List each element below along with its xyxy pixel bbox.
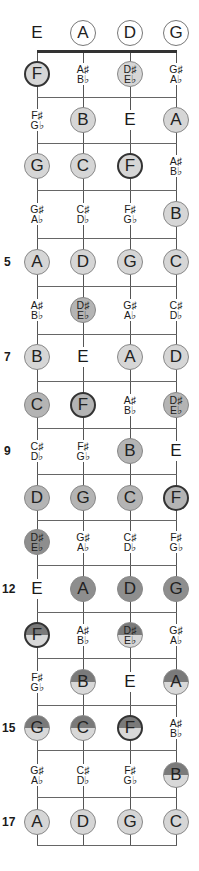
note-cell: G♯A♭	[22, 199, 52, 229]
scale-note-marker: C	[163, 809, 189, 835]
note-cell: G	[115, 807, 145, 837]
note-cell: G♯A♭	[68, 527, 98, 557]
note-cell: G	[115, 247, 145, 277]
note-cell: F♯G♭	[22, 667, 52, 697]
note-cell: B	[161, 760, 191, 790]
note-label: A	[31, 252, 42, 272]
fret-line	[37, 474, 177, 475]
note-cell: D♯E♭	[161, 390, 191, 420]
note-label: F	[32, 64, 42, 84]
enharmonic-note-label: F♯G♭	[76, 440, 89, 462]
scale-note-marker: G	[70, 485, 96, 511]
note-label: F	[78, 395, 88, 415]
note-label: A	[31, 812, 42, 832]
note-label: F	[125, 156, 135, 176]
scale-note-marker: A	[24, 809, 50, 835]
root-note-marker: F	[163, 485, 189, 511]
note-cell: G♯A♭	[161, 59, 191, 89]
note-label: E	[30, 23, 43, 43]
note-label: G	[30, 718, 43, 738]
note-label: G	[169, 579, 182, 599]
enharmonic-note-label: F♯G♭	[123, 203, 136, 225]
note-label: G	[123, 812, 136, 832]
scale-note-marker: D	[24, 485, 50, 511]
scale-note-marker: D	[117, 576, 143, 602]
note-label: D	[31, 488, 43, 508]
note-label: A	[170, 672, 181, 692]
note-label: C	[170, 252, 182, 272]
fret-line	[37, 845, 177, 846]
scale-note-marker: B	[163, 762, 189, 788]
note-cell: D	[68, 807, 98, 837]
note-label: G	[123, 252, 136, 272]
enharmonic-note-label: A♯B♭	[124, 394, 136, 416]
note-cell: F	[161, 483, 191, 513]
note-cell: F♯G♭	[161, 527, 191, 557]
note-cell: A♯B♭	[161, 151, 191, 181]
scale-note-marker: C	[24, 392, 50, 418]
note-label: A	[170, 110, 181, 130]
note-label: E	[30, 579, 43, 599]
enharmonic-note-label: G♯A♭	[123, 299, 136, 321]
fret-line	[37, 705, 177, 706]
note-label: E	[123, 110, 136, 130]
scale-note-marker: B	[163, 201, 189, 227]
root-note-marker: F	[24, 622, 50, 648]
fret-number: 9	[4, 444, 11, 458]
note-cell: C♯D♭	[68, 199, 98, 229]
enharmonic-note-label: F♯G♭	[30, 109, 43, 131]
note-cell: A	[161, 667, 191, 697]
note-label: A	[77, 23, 88, 43]
fret-line	[37, 520, 177, 521]
scale-note-marker: A	[117, 344, 143, 370]
note-cell: F	[22, 59, 52, 89]
fret-number: 15	[2, 721, 15, 735]
enharmonic-note-label: F♯G♭	[30, 671, 43, 693]
note-cell: E	[161, 436, 191, 466]
enharmonic-note-label: F♯G♭	[169, 531, 182, 553]
root-note-marker: F	[70, 392, 96, 418]
note-cell: G♯A♭	[115, 295, 145, 325]
note-cell: G	[161, 18, 191, 48]
open-string-marker: D	[117, 20, 143, 46]
scale-note-marker: D♯E♭	[24, 529, 50, 555]
note-label: C	[31, 395, 43, 415]
note-label: G	[30, 156, 43, 176]
fret-line	[37, 428, 177, 429]
note-cell: B	[68, 105, 98, 135]
nut	[37, 50, 177, 53]
scale-note-marker: G	[24, 715, 50, 741]
note-label: C	[170, 812, 182, 832]
fret-line	[37, 658, 177, 659]
scale-note-marker: B	[117, 438, 143, 464]
note-cell: C♯D♭	[22, 436, 52, 466]
root-note-marker: F	[24, 61, 50, 87]
enharmonic-note-label: A♯B♭	[77, 63, 89, 85]
note-cell: E	[22, 18, 52, 48]
scale-note-marker: D♯E♭	[117, 622, 143, 648]
note-cell: A	[22, 247, 52, 277]
root-note-marker: F	[117, 153, 143, 179]
scale-note-marker: G	[163, 576, 189, 602]
scale-note-marker: C	[163, 249, 189, 275]
note-cell: C	[161, 807, 191, 837]
fret-line	[37, 286, 177, 287]
note-label: D	[170, 347, 182, 367]
scale-note-marker: B	[24, 344, 50, 370]
fretboard-diagram: 579121517EADGFA♯B♭D♯E♭G♯A♭F♯G♭BEAGCFA♯B♭…	[0, 0, 199, 871]
scale-note-marker: G	[117, 809, 143, 835]
note-cell: E	[22, 574, 52, 604]
note-label: C	[124, 488, 136, 508]
fret-number: 7	[4, 350, 11, 364]
note-cell: E	[115, 105, 145, 135]
note-cell: C♯D♭	[68, 760, 98, 790]
scale-note-marker: C	[70, 153, 96, 179]
note-label: E	[169, 441, 182, 461]
scale-note-marker: D♯E♭	[163, 392, 189, 418]
note-cell: D♯E♭	[22, 527, 52, 557]
note-cell: B	[115, 436, 145, 466]
note-label: C	[77, 718, 89, 738]
scale-note-marker: B	[70, 669, 96, 695]
note-cell: G	[161, 574, 191, 604]
note-label: G	[76, 488, 89, 508]
